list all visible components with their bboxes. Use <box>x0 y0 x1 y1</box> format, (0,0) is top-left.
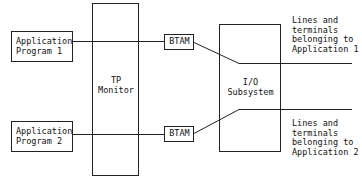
io-subsystem-label: I/O Subsystem <box>220 78 281 97</box>
app-program-2-label: Application Program 2 <box>16 127 72 146</box>
annotation-2-line: Application 2 <box>292 148 359 158</box>
annotation-1-line: Application 1 <box>292 45 359 55</box>
app1-line2: Program 1 <box>16 47 72 57</box>
annotation-application-2: Lines and terminals belonging to Applica… <box>292 119 359 157</box>
annotation-application-1: Lines and terminals belonging to Applica… <box>292 16 359 54</box>
btam-2-label: BTAM <box>165 129 194 139</box>
io-line2: Subsystem <box>220 88 281 98</box>
app-program-1-label: Application Program 1 <box>16 37 72 56</box>
tp-monitor-label: TP Monitor <box>93 76 139 95</box>
tp-line2: Monitor <box>93 86 139 96</box>
app2-line2: Program 2 <box>16 137 72 147</box>
btam-1-label: BTAM <box>165 37 194 47</box>
